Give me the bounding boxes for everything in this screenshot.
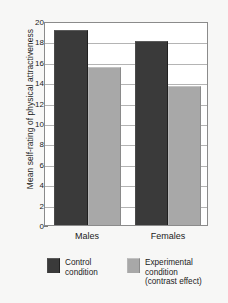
legend-swatch-experimental-icon: [127, 258, 140, 273]
y-tick-4: 4: [26, 181, 44, 190]
legend-label-control-line2: condition: [65, 268, 98, 277]
y-tick-18: 18: [26, 38, 44, 47]
category-label-males: Males: [54, 231, 120, 241]
legend-label-experimental-line1: Experimental: [145, 258, 193, 267]
bar-males-control: [54, 30, 88, 225]
y-tick-8: 8: [26, 140, 44, 149]
legend-label-experimental: Experimental condition (contrast effect): [145, 258, 202, 287]
bar-chart-figure: Mean self-rating of physical attractiven…: [0, 0, 228, 303]
bar-females-control: [135, 41, 168, 225]
legend-swatch-control-icon: [47, 258, 60, 273]
y-tick-2: 2: [26, 201, 44, 210]
legend-label-experimental-line3: (contrast effect): [145, 277, 202, 286]
legend-label-experimental-line2: condition: [145, 268, 178, 277]
bar-males-experimental: [88, 67, 121, 225]
y-tick-14: 14: [26, 79, 44, 88]
plot-area: [44, 22, 208, 226]
y-tick-12: 12: [26, 99, 44, 108]
legend-entry-control: Control condition: [47, 258, 98, 277]
y-tick-0: 0: [26, 222, 44, 231]
y-tick-16: 16: [26, 58, 44, 67]
y-tick-20: 20: [26, 18, 44, 27]
legend-label-control: Control condition: [65, 258, 98, 277]
y-tickmark-0: [44, 226, 48, 227]
category-label-females: Females: [133, 231, 203, 241]
y-tick-6: 6: [26, 160, 44, 169]
chart-legend: Control condition Experimental condition…: [0, 256, 228, 302]
y-axis-tick-labels: 20 18 16 14 12 10 8 6 4 2 0: [20, 22, 44, 226]
legend-label-control-line1: Control: [65, 258, 91, 267]
y-tick-10: 10: [26, 120, 44, 129]
legend-entry-experimental: Experimental condition (contrast effect): [127, 258, 202, 287]
bar-females-experimental: [168, 86, 201, 225]
